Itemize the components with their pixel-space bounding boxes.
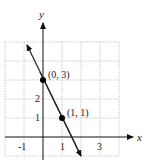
x-axis-label: x <box>136 131 142 143</box>
tick-x-neg1: -1 <box>18 141 26 152</box>
point-0-3 <box>40 77 46 83</box>
tick-x-1: 1 <box>60 141 65 152</box>
tick-y-2: 2 <box>35 93 40 104</box>
y-axis-label: y <box>38 8 44 20</box>
grid <box>5 42 119 156</box>
coordinate-plot: x y -1 1 3 1 2 (0, 3) (1, 1) <box>0 0 149 163</box>
point-0-3-label: (0, 3) <box>48 69 70 81</box>
point-1-1-label: (1, 1) <box>67 107 89 119</box>
tick-y-1: 1 <box>35 112 40 123</box>
tick-x-3: 3 <box>97 141 102 152</box>
point-1-1 <box>59 115 65 121</box>
